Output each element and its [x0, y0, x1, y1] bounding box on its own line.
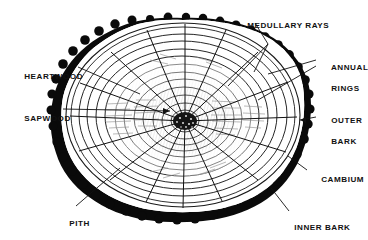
- label-annual-rings-line2: RINGS: [331, 84, 359, 93]
- pith-core: [173, 112, 197, 130]
- label-outer-bark-line2: BARK: [331, 137, 357, 146]
- label-outer-bark: OUTER BARK: [320, 105, 362, 158]
- label-inner-bark: INNER BARK: [283, 212, 351, 240]
- label-annual-rings-line1: ANNUAL: [331, 63, 368, 72]
- label-pith-text: PITH: [69, 219, 90, 228]
- label-sapwood-text: SAPWOOD: [24, 114, 71, 123]
- label-heartwood: HEARTWOOD: [13, 61, 83, 93]
- label-cambium: CAMBIUM: [310, 164, 364, 196]
- label-medullary-rays-text: MEDULLARY RAYS: [247, 21, 329, 30]
- label-pith: PITH: [58, 208, 90, 240]
- label-sapwood: SAPWOOD: [13, 103, 71, 135]
- label-outer-bark-line1: OUTER: [331, 116, 362, 125]
- label-inner-bark-text: INNER BARK: [294, 223, 350, 232]
- leader-inner-bark: [271, 188, 289, 211]
- label-medullary-rays: MEDULLARY RAYS: [236, 10, 329, 42]
- label-annual-rings: ANNUAL RINGS: [320, 52, 368, 105]
- label-heartwood-text: HEARTWOOD: [24, 72, 83, 81]
- label-cambium-text: CAMBIUM: [321, 175, 364, 184]
